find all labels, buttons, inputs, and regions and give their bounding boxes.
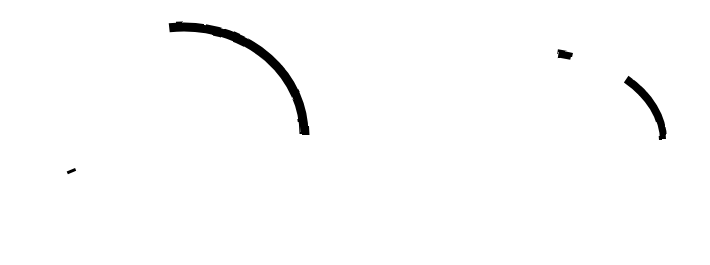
circle-ring xyxy=(64,27,304,241)
ellipse-ring xyxy=(391,51,663,229)
drawing-canvas xyxy=(0,0,710,265)
